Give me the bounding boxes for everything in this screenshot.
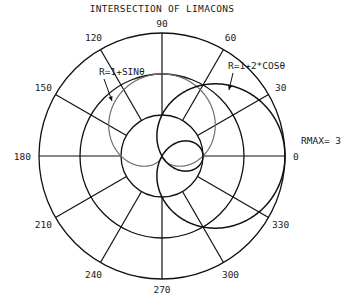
curves bbox=[109, 74, 285, 228]
angle-label-0: 0 bbox=[293, 151, 299, 162]
angle-label-60: 60 bbox=[225, 32, 237, 43]
angle-label-180: 180 bbox=[14, 151, 31, 162]
angle-label-90: 90 bbox=[156, 18, 168, 29]
annotation-arrow-sin-head bbox=[108, 96, 112, 101]
angle-label-240: 240 bbox=[85, 269, 102, 280]
chart-title: INTERSECTION OF LIMACONS bbox=[90, 3, 234, 14]
angle-label-330: 330 bbox=[272, 219, 289, 230]
polar-chart: INTERSECTION OF LIMACONS 030609012015018… bbox=[0, 0, 353, 305]
angle-label-120: 120 bbox=[85, 32, 102, 43]
angle-label-270: 270 bbox=[153, 284, 170, 295]
grid-spoke-210 bbox=[55, 177, 126, 218]
angle-label-210: 210 bbox=[35, 219, 52, 230]
annotation-sin-limacon: R=1+SINθ bbox=[99, 66, 145, 77]
angle-label-300: 300 bbox=[222, 269, 239, 280]
angle-label-30: 30 bbox=[275, 82, 287, 93]
angle-label-150: 150 bbox=[35, 82, 52, 93]
annotation-cos-limacon: R=1+2*COSθ bbox=[228, 60, 285, 71]
grid-spoke-240 bbox=[101, 192, 142, 263]
grid-spoke-330 bbox=[198, 177, 269, 218]
rmax-label: RMAX= 3 bbox=[301, 135, 341, 146]
